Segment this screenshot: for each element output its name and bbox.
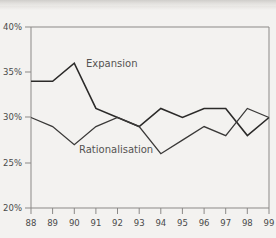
y-tick-label-30: 30%: [3, 112, 22, 122]
x-axis-ticks: [31, 208, 269, 214]
x-axis-labels: 88 89 90 91 92 93 94 95 96 97 98 99: [26, 218, 275, 228]
y-tick-label-20: 20%: [3, 203, 22, 213]
y-tick-label-25: 25%: [3, 158, 22, 168]
series-label-rationalisation: Rationalisation: [79, 144, 153, 155]
y-axis-ticks: [25, 27, 31, 208]
x-tick-label-90: 90: [69, 218, 80, 228]
series-line-expansion: [31, 63, 269, 135]
y-tick-label-40: 40%: [3, 22, 22, 32]
x-tick-label-88: 88: [26, 218, 37, 228]
x-tick-label-95: 95: [177, 218, 188, 228]
x-tick-label-96: 96: [199, 218, 210, 228]
x-tick-label-99: 99: [264, 218, 275, 228]
y-axis-labels: 40% 35% 30% 25% 20%: [3, 22, 22, 213]
x-tick-label-94: 94: [155, 218, 166, 228]
x-tick-label-91: 91: [90, 218, 101, 228]
y-tick-label-35: 35%: [3, 67, 22, 77]
line-chart: 40% 35% 30% 25% 20% 88 89 90 91: [0, 0, 276, 238]
x-tick-label-98: 98: [242, 218, 253, 228]
x-tick-label-93: 93: [134, 218, 145, 228]
series-group: [31, 63, 269, 154]
chart-svg: 40% 35% 30% 25% 20% 88 89 90 91: [0, 0, 276, 238]
x-tick-label-97: 97: [220, 218, 231, 228]
x-tick-label-92: 92: [112, 218, 123, 228]
x-tick-label-89: 89: [47, 218, 58, 228]
series-annotations: Expansion Rationalisation: [79, 58, 153, 155]
series-label-expansion: Expansion: [86, 58, 138, 69]
